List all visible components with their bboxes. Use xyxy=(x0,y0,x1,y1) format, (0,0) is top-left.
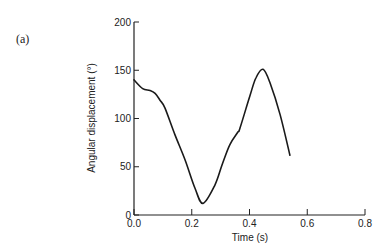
x-tick-label: 0.0 xyxy=(127,218,141,229)
y-tick-label: 100 xyxy=(114,113,131,124)
y-tick-label: 200 xyxy=(114,17,131,28)
x-tick-label: 0.8 xyxy=(358,218,372,229)
x-tick-label: 0.6 xyxy=(300,218,314,229)
x-tick-label: 0.4 xyxy=(243,218,257,229)
axes: 0501001502000.00.20.40.60.8 xyxy=(114,17,372,230)
y-tick-label: 50 xyxy=(120,161,132,172)
data-line xyxy=(134,69,290,203)
x-axis-title: Time (s) xyxy=(232,232,268,243)
line-chart: 0501001502000.00.20.40.60.8 Angular disp… xyxy=(0,0,382,251)
y-tick-label: 150 xyxy=(114,65,131,76)
y-axis-title: Angular displacement (°) xyxy=(86,63,97,173)
x-tick-label: 0.2 xyxy=(185,218,199,229)
